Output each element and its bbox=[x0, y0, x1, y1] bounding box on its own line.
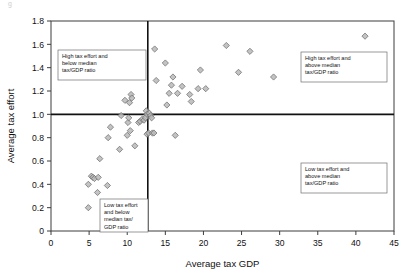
figure-container: g 05101520253035404500.20.40.60.81.01.21… bbox=[0, 0, 411, 280]
x-tick-label: 0 bbox=[49, 238, 54, 248]
y-tick-label: 0.8 bbox=[32, 133, 44, 143]
data-point bbox=[117, 146, 123, 152]
quadrant-label-bottom-right-line: Low tax effort and bbox=[305, 166, 349, 172]
data-point bbox=[174, 90, 180, 96]
x-tick-label: 25 bbox=[237, 238, 247, 248]
quadrant-annotations-group: High tax effort andbelow mediantax/GDP r… bbox=[58, 50, 387, 232]
quadrant-label-top-right: High tax effort andabove mediantax/GDP r… bbox=[301, 52, 387, 82]
data-point bbox=[247, 48, 253, 54]
x-tick-label: 35 bbox=[313, 238, 323, 248]
data-point bbox=[107, 124, 113, 130]
data-point bbox=[362, 33, 368, 39]
data-point bbox=[172, 132, 178, 138]
quadrant-label-top-left-line: High tax effort and bbox=[62, 53, 108, 59]
x-tick-label: 15 bbox=[161, 238, 171, 248]
y-tick-label: 1.8 bbox=[32, 16, 44, 26]
quadrant-label-top-left: High tax effort andbelow mediantax/GDP r… bbox=[58, 50, 146, 80]
data-point bbox=[170, 74, 176, 80]
x-tick-label: 5 bbox=[87, 238, 92, 248]
data-point bbox=[223, 42, 229, 48]
data-point bbox=[235, 69, 241, 75]
y-tick-label: 0 bbox=[39, 226, 44, 236]
data-point bbox=[168, 82, 174, 88]
quadrant-label-bottom-left-line: GDP ratio bbox=[104, 224, 128, 230]
data-point bbox=[94, 189, 100, 195]
x-tick-label: 45 bbox=[389, 238, 399, 248]
data-point bbox=[164, 102, 170, 108]
data-point bbox=[126, 115, 132, 121]
data-point bbox=[104, 182, 110, 188]
quadrant-label-top-right-line: tax/GDP ratio bbox=[305, 69, 338, 75]
data-point bbox=[166, 90, 172, 96]
x-tick-label: 30 bbox=[275, 238, 285, 248]
data-point bbox=[97, 156, 103, 162]
quadrant-label-bottom-right: Low tax effort andabove mediantax/GDP ra… bbox=[301, 163, 387, 193]
data-point bbox=[85, 181, 91, 187]
x-tick-label: 10 bbox=[122, 238, 132, 248]
quadrant-label-top-left-line: below median bbox=[62, 60, 97, 66]
data-point bbox=[195, 86, 201, 92]
data-point bbox=[85, 205, 91, 211]
y-tick-label: 1.0 bbox=[32, 110, 44, 120]
y-tick-label: 0.4 bbox=[32, 180, 44, 190]
x-tick-label: 40 bbox=[351, 238, 361, 248]
data-point bbox=[162, 60, 168, 66]
quadrant-label-bottom-right-line: tax/GDP ratio bbox=[305, 180, 338, 186]
y-axis-title: Average tax effort bbox=[5, 88, 16, 163]
y-tick-label: 1.2 bbox=[32, 86, 44, 96]
quadrant-label-bottom-left-line: and below bbox=[104, 209, 130, 215]
data-point bbox=[188, 98, 194, 104]
data-point bbox=[152, 46, 158, 52]
data-point bbox=[153, 77, 159, 83]
data-point bbox=[132, 143, 138, 149]
quadrant-label-top-left-line: tax/GDP ratio bbox=[62, 67, 95, 73]
data-point bbox=[179, 83, 185, 89]
data-point bbox=[270, 74, 276, 80]
data-point bbox=[203, 86, 209, 92]
quadrant-label-top-right-line: above median bbox=[305, 62, 340, 68]
data-point bbox=[197, 67, 203, 73]
quadrant-label-top-right-line: High tax effort and bbox=[305, 55, 351, 61]
quadrant-label-bottom-left-line: median tax/ bbox=[104, 216, 133, 222]
data-point bbox=[118, 112, 124, 118]
data-point bbox=[105, 135, 111, 141]
y-tick-label: 0.6 bbox=[32, 156, 44, 166]
quadrant-label-bottom-right-line: above median bbox=[305, 173, 340, 179]
quadrant-label-bottom-left-line: Low tax effort bbox=[104, 202, 138, 208]
y-tick-label: 1.6 bbox=[32, 40, 44, 50]
scatter-plot: 05101520253035404500.20.40.60.81.01.21.4… bbox=[0, 0, 411, 280]
data-point bbox=[187, 91, 193, 97]
quadrant-label-bottom-left: Low tax effortand belowmedian tax/GDP ra… bbox=[100, 199, 148, 232]
x-tick-label: 20 bbox=[199, 238, 209, 248]
x-axis-title: Average tax GDP bbox=[186, 258, 260, 269]
y-tick-label: 0.2 bbox=[32, 203, 44, 213]
y-tick-label: 1.4 bbox=[32, 63, 44, 73]
